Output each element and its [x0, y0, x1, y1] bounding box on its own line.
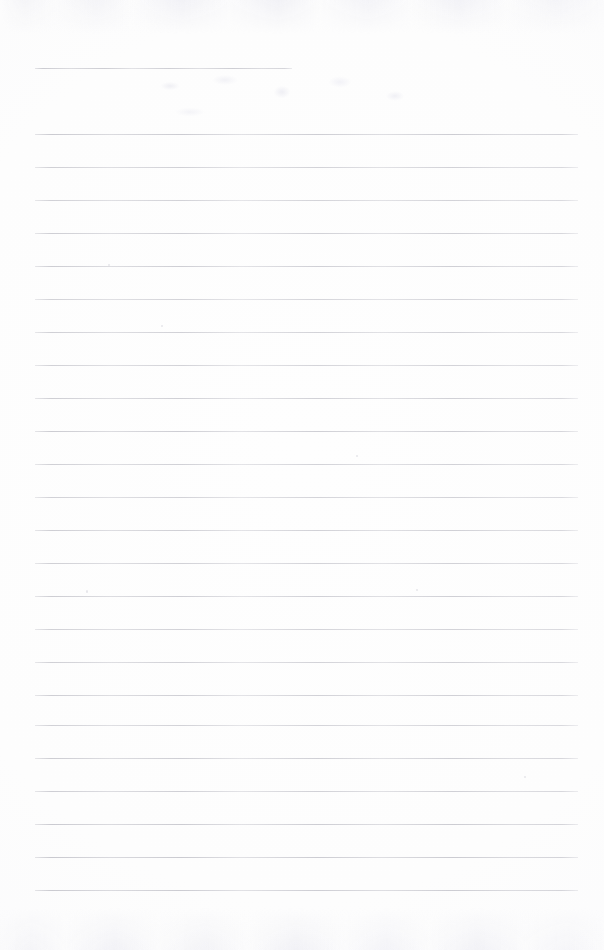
ruled-line	[35, 725, 578, 726]
ruled-line	[35, 167, 578, 168]
ruled-line	[35, 596, 578, 597]
ruled-line	[35, 629, 578, 630]
ruled-line	[35, 758, 578, 759]
ruled-line	[35, 563, 578, 564]
ruled-line	[35, 200, 578, 201]
ruled-line	[35, 662, 578, 663]
ruled-line	[35, 68, 292, 69]
ruled-line	[35, 695, 578, 696]
ruled-line	[35, 857, 578, 858]
ruled-lines-group	[0, 0, 604, 950]
ruled-line	[35, 791, 578, 792]
ruled-line	[35, 464, 578, 465]
ruled-line	[35, 266, 578, 267]
scanned-page	[0, 0, 604, 950]
ruled-line	[35, 233, 578, 234]
ruled-line	[35, 332, 578, 333]
ruled-line	[35, 299, 578, 300]
ruled-line	[35, 431, 578, 432]
ruled-line	[35, 365, 578, 366]
ruled-line	[35, 134, 578, 135]
ruled-line	[35, 530, 578, 531]
ruled-line	[35, 497, 578, 498]
ruled-line	[35, 824, 578, 825]
ruled-line	[35, 890, 578, 891]
ruled-line	[35, 398, 578, 399]
